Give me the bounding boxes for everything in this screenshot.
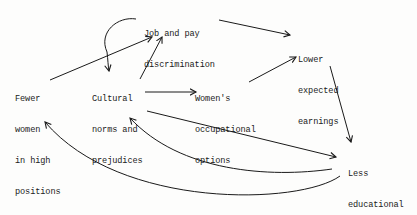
- node-line: Lower: [298, 55, 338, 65]
- node-line: Cultural: [92, 94, 143, 104]
- node-line: occupational: [195, 125, 256, 135]
- node-line: in high: [15, 156, 61, 166]
- node-fewer-women-high-positions: Fewer women in high positions: [15, 73, 61, 215]
- node-line: women: [15, 125, 61, 135]
- node-line: discrimination: [144, 60, 215, 70]
- node-line: prejudices: [92, 156, 143, 166]
- edge-occupational-options-to-lower-earnings: [249, 57, 296, 82]
- node-line: options: [195, 156, 256, 166]
- node-line: Fewer: [15, 94, 61, 104]
- node-line: educational: [348, 200, 404, 210]
- edge-less-education-to-fewer-women: [45, 122, 340, 195]
- node-line: expected: [298, 86, 338, 96]
- node-cultural-norms-prejudices: Cultural norms and prejudices: [92, 73, 143, 187]
- node-line: Women's: [195, 94, 256, 104]
- node-line: Less: [348, 169, 404, 179]
- causal-diagram: Job and pay discrimination Lower expecte…: [0, 0, 417, 215]
- node-line: Job and pay: [144, 29, 215, 39]
- node-womens-occupational-options: Women's occupational options: [195, 73, 256, 187]
- edge-job-pay-to-lower-earnings: [219, 20, 290, 35]
- node-line: positions: [15, 187, 61, 197]
- node-line: norms and: [92, 125, 143, 135]
- node-line: earnings: [298, 117, 338, 127]
- edge-job-pay-to-cultural-norms: [105, 19, 136, 71]
- node-less-educational-investment: Less educational investment: [348, 148, 404, 215]
- node-lower-expected-earnings: Lower expected earnings: [298, 34, 338, 148]
